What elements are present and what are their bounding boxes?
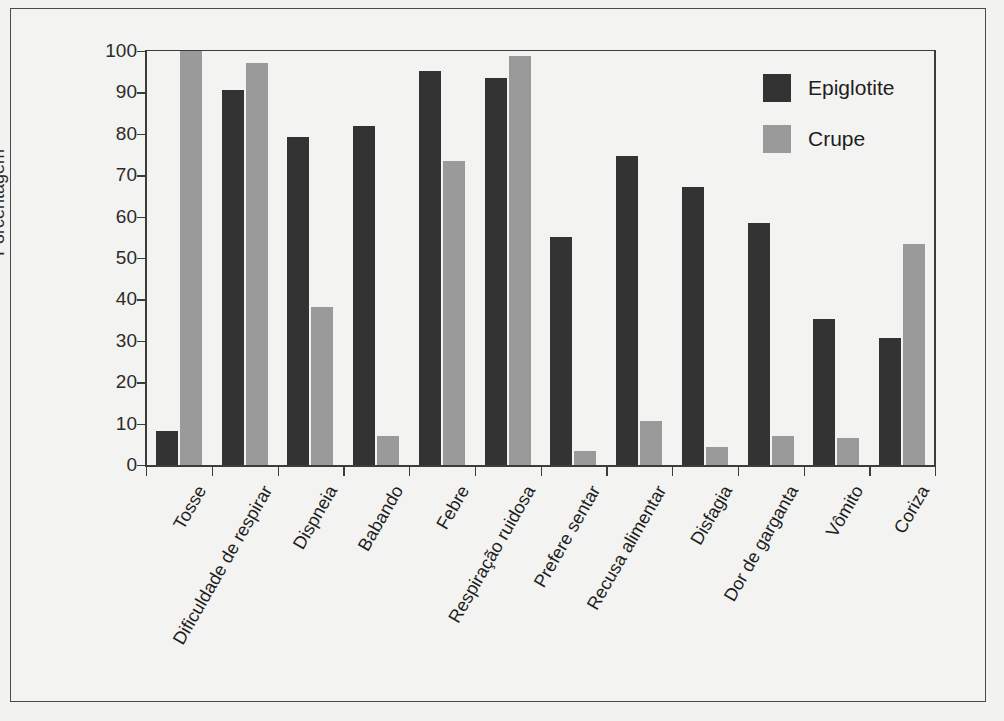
- x-tick-mark: [409, 466, 410, 476]
- y-tick-label: 10: [77, 413, 137, 435]
- bar-crupe-8: [706, 447, 728, 465]
- bar-epiglotite-6: [550, 237, 572, 465]
- y-tick-label: 70: [77, 164, 137, 186]
- y-tick-mark: [137, 424, 145, 425]
- y-tick-label: 50: [77, 247, 137, 269]
- x-tick-mark: [146, 466, 147, 476]
- bar-crupe-7: [640, 421, 662, 465]
- legend-swatch-epiglotite: [763, 74, 791, 102]
- y-tick-mark: [137, 175, 145, 176]
- x-tick-mark: [672, 466, 673, 476]
- bar-crupe-5: [509, 56, 531, 465]
- bar-epiglotite-5: [485, 78, 507, 465]
- y-tick-mark: [137, 217, 145, 218]
- bar-crupe-4: [443, 161, 465, 465]
- x-tick-mark: [541, 466, 542, 476]
- bar-epiglotite-9: [748, 223, 770, 465]
- bar-crupe-2: [311, 307, 333, 465]
- bar-epiglotite-2: [287, 137, 309, 465]
- x-tick-mark: [869, 466, 870, 476]
- bar-epiglotite-7: [616, 156, 638, 465]
- legend: EpiglotiteCrupe: [763, 74, 894, 176]
- y-tick-label: 90: [77, 81, 137, 103]
- y-tick-label: 100: [77, 40, 137, 62]
- y-tick-label: 20: [77, 371, 137, 393]
- bar-epiglotite-4: [419, 71, 441, 465]
- y-tick-mark: [137, 341, 145, 342]
- y-tick-mark: [137, 382, 145, 383]
- x-tick-mark: [212, 466, 213, 476]
- y-tick-mark: [137, 51, 145, 52]
- y-tick-label: 30: [77, 330, 137, 352]
- y-tick-label: 80: [77, 123, 137, 145]
- bar-crupe-10: [837, 438, 859, 465]
- bar-epiglotite-8: [682, 187, 704, 465]
- bar-crupe-3: [377, 436, 399, 465]
- x-tick-mark: [804, 466, 805, 476]
- bar-crupe-6: [574, 451, 596, 465]
- legend-label: Epiglotite: [808, 76, 894, 100]
- legend-item-epiglotite: Epiglotite: [763, 74, 894, 102]
- bar-epiglotite-3: [353, 126, 375, 465]
- bar-crupe-9: [772, 436, 794, 465]
- y-tick-label: 0: [77, 454, 137, 476]
- bar-epiglotite-11: [879, 338, 901, 466]
- y-tick-mark: [137, 258, 145, 259]
- x-tick-mark: [606, 466, 607, 476]
- x-tick-mark: [343, 466, 344, 476]
- bar-epiglotite-0: [156, 431, 178, 465]
- bar-epiglotite-1: [222, 90, 244, 465]
- x-tick-mark: [935, 466, 936, 476]
- legend-swatch-crupe: [763, 125, 791, 153]
- bar-epiglotite-10: [813, 319, 835, 465]
- y-tick-mark: [137, 465, 145, 466]
- bar-crupe-1: [246, 63, 268, 465]
- x-tick-mark: [278, 466, 279, 476]
- figure-canvas: Porcentagem 0102030405060708090100 Tosse…: [0, 0, 1004, 721]
- x-tick-mark: [738, 466, 739, 476]
- bar-crupe-0: [180, 51, 202, 465]
- bar-crupe-11: [903, 244, 925, 465]
- y-tick-label: 40: [77, 288, 137, 310]
- legend-label: Crupe: [808, 127, 865, 151]
- y-tick-label: 60: [77, 206, 137, 228]
- y-axis-label: Porcentagem: [0, 149, 9, 256]
- y-tick-mark: [137, 134, 145, 135]
- y-tick-mark: [137, 92, 145, 93]
- legend-item-crupe: Crupe: [763, 125, 894, 153]
- y-tick-mark: [137, 299, 145, 300]
- x-tick-mark: [475, 466, 476, 476]
